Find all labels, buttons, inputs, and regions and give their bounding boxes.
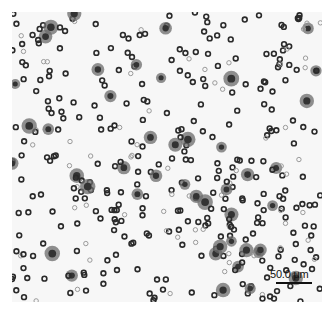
cell <box>114 252 119 257</box>
cell <box>301 262 306 267</box>
cell <box>84 288 89 293</box>
cell <box>227 122 232 127</box>
cell <box>25 276 30 281</box>
cell <box>196 176 201 181</box>
cell <box>223 269 227 273</box>
cell <box>223 71 239 87</box>
cell <box>30 33 35 38</box>
cell <box>255 220 260 225</box>
cell <box>168 138 182 152</box>
cell <box>167 13 172 18</box>
cell <box>169 58 174 63</box>
cell <box>19 34 23 38</box>
cell <box>140 206 145 211</box>
cell <box>39 192 44 197</box>
cell <box>56 127 61 132</box>
cell <box>63 71 68 76</box>
cell <box>206 51 211 56</box>
cell <box>73 196 78 201</box>
cell <box>291 230 296 235</box>
cell <box>204 14 209 19</box>
cell <box>215 176 220 181</box>
cell <box>41 241 46 246</box>
cell <box>318 21 322 25</box>
cell <box>45 155 50 160</box>
cell <box>261 159 266 164</box>
cell <box>19 177 24 182</box>
cell <box>98 216 103 221</box>
cell <box>256 215 261 220</box>
cell <box>274 128 279 133</box>
cell <box>212 293 217 298</box>
cell <box>22 139 27 144</box>
cell <box>95 161 100 166</box>
cells-layer <box>12 12 322 302</box>
cell <box>300 94 314 108</box>
cell <box>282 42 287 47</box>
cell <box>104 90 116 102</box>
cell <box>99 127 104 132</box>
cell <box>317 286 322 291</box>
cell <box>108 126 113 131</box>
cell <box>216 64 221 69</box>
cell <box>251 231 256 236</box>
cell <box>265 275 270 280</box>
cell <box>187 57 191 61</box>
cell <box>156 162 161 167</box>
cell <box>147 109 151 113</box>
cell <box>22 295 27 300</box>
cell <box>281 196 286 201</box>
cell <box>213 239 227 253</box>
cell <box>102 83 107 88</box>
cell <box>249 158 254 163</box>
cell <box>31 143 35 147</box>
cell <box>178 68 183 73</box>
cell <box>303 56 307 60</box>
cell <box>42 276 47 281</box>
cell <box>306 238 310 242</box>
cell <box>258 86 263 91</box>
cell <box>66 270 78 282</box>
cell <box>12 79 20 89</box>
cell <box>84 203 88 207</box>
cell <box>77 115 82 120</box>
cell <box>162 209 166 213</box>
cell <box>292 141 297 146</box>
cell <box>277 57 282 62</box>
cell <box>190 190 203 203</box>
cell <box>189 290 194 295</box>
cell <box>20 42 25 47</box>
cell <box>67 163 71 167</box>
cell <box>150 169 163 182</box>
cell <box>205 20 210 25</box>
cell <box>161 287 166 292</box>
cell <box>14 288 19 293</box>
cell <box>129 71 133 75</box>
cell <box>167 229 172 234</box>
cell <box>243 82 248 87</box>
cell <box>88 154 92 158</box>
cell <box>113 164 118 169</box>
cell <box>71 100 76 105</box>
cell <box>165 111 170 116</box>
cell <box>135 267 140 272</box>
cell <box>210 135 215 140</box>
cell <box>300 174 305 179</box>
cell <box>59 109 64 114</box>
cell <box>131 59 142 70</box>
cell <box>144 131 157 144</box>
cell <box>264 52 269 57</box>
cell <box>140 144 145 149</box>
cell <box>203 67 207 71</box>
cell <box>245 283 256 294</box>
cell <box>231 174 236 179</box>
cell <box>116 68 121 73</box>
cell <box>63 29 68 34</box>
cell <box>177 47 182 52</box>
micrograph-image <box>12 12 322 302</box>
cell <box>13 125 18 130</box>
cell <box>241 168 254 181</box>
cell <box>255 201 260 206</box>
cell <box>135 142 139 146</box>
cell <box>311 224 316 229</box>
